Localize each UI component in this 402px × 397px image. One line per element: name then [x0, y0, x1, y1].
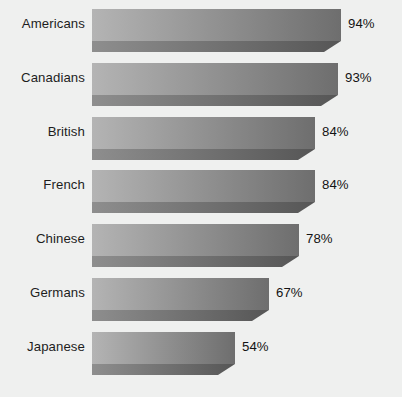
- bar-shape: [92, 9, 343, 54]
- bar-row: Americans94%: [0, 9, 402, 52]
- bar-value-label: 54%: [242, 339, 269, 354]
- bar-shape: [92, 117, 317, 162]
- bar-shape: [92, 224, 301, 269]
- bar-row: Canadians93%: [0, 63, 402, 106]
- bar-category-label: French: [43, 177, 85, 192]
- bar-row: French84%: [0, 170, 402, 213]
- bar-value-label: 94%: [348, 16, 375, 31]
- bar-category-label: Chinese: [36, 231, 85, 246]
- bar-shape: [92, 170, 317, 215]
- bar-category-label: Canadians: [21, 70, 85, 85]
- bar-value-label: 84%: [322, 177, 349, 192]
- bar-shape: [92, 332, 237, 377]
- bar-category-label: British: [48, 124, 85, 139]
- bar-value-label: 93%: [345, 70, 372, 85]
- bar-category-label: Japanese: [27, 339, 85, 354]
- bar-value-label: 67%: [276, 285, 303, 300]
- bar-value-label: 84%: [322, 124, 349, 139]
- bar-category-label: Germans: [30, 285, 85, 300]
- bar-row: Germans67%: [0, 278, 402, 321]
- bar-row: Japanese54%: [0, 332, 402, 375]
- chart-plot-area: Americans94%Canadians93%British84%French…: [0, 0, 402, 397]
- bar-shape: [92, 278, 271, 323]
- bar-category-label: Americans: [22, 16, 85, 31]
- bar-row: Chinese78%: [0, 224, 402, 267]
- bar-value-label: 78%: [306, 231, 333, 246]
- bar-row: British84%: [0, 117, 402, 160]
- bar-shape: [92, 63, 340, 108]
- bar-chart: Americans94%Canadians93%British84%French…: [0, 0, 402, 397]
